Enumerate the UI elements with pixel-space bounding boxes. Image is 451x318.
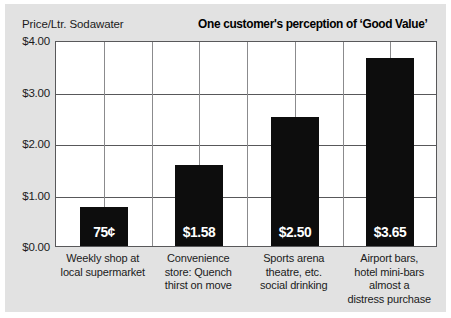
x-category-label: Sports arenatheatre, etc.social drinking (246, 252, 342, 306)
y-tick-label: $4.00 (22, 35, 50, 47)
plot-area: 75¢$1.58$2.50$3.65 (55, 41, 437, 247)
x-category-label-line: distress purchase (342, 293, 438, 307)
y-tick-label: $3.00 (22, 87, 50, 99)
gridline-vertical (152, 42, 153, 246)
chart-screenshot: Price/Ltr. Sodawater One customer's perc… (0, 0, 451, 318)
x-category-label: Conveniencestore: Quenchthirst on move (151, 252, 247, 306)
x-category-label-line: hotel mini-bars (342, 266, 438, 280)
x-category-label-line: thirst on move (151, 279, 247, 293)
x-category-label-line: Weekly shop at (55, 252, 151, 266)
x-category-label-line: Sports arena (246, 252, 342, 266)
bar-value-label: $1.58 (177, 223, 221, 240)
y-tick-label: $1.00 (22, 190, 50, 202)
bar-value-label: $3.65 (368, 223, 412, 240)
bar: $3.65 (366, 58, 414, 246)
x-axis-category-labels: Weekly shop atlocal supermarketConvenien… (55, 252, 437, 306)
x-category-label: Weekly shop atlocal supermarket (55, 252, 151, 306)
bar-value-label: 75¢ (82, 223, 126, 240)
x-category-label-line: almost a (342, 279, 438, 293)
chart-card: Price/Ltr. Sodawater One customer's perc… (5, 4, 446, 312)
x-category-label-line: theatre, etc. (246, 266, 342, 280)
bar: $2.50 (271, 117, 319, 246)
x-category-label-line: social drinking (246, 279, 342, 293)
gridline-vertical (247, 42, 248, 246)
bar-value-label: $2.50 (273, 223, 317, 240)
bar: $1.58 (175, 165, 223, 246)
bar: 75¢ (80, 207, 128, 246)
x-category-label-line: Convenience (151, 252, 247, 266)
y-tick-label: $2.00 (22, 138, 50, 150)
chart-title: One customer's perception of ‘Good Value… (198, 17, 427, 31)
x-category-label: Airport bars,hotel mini-barsalmost adist… (342, 252, 438, 306)
x-category-label-line: local supermarket (55, 266, 151, 280)
y-axis-tick-labels: $4.00$3.00$2.00$1.00$0.00 (5, 41, 50, 247)
y-tick-label: $0.00 (22, 241, 50, 253)
x-category-label-line: store: Quench (151, 266, 247, 280)
y-axis-title: Price/Ltr. Sodawater (22, 18, 124, 30)
gridline-vertical (343, 42, 344, 246)
x-category-label-line: Airport bars, (342, 252, 438, 266)
